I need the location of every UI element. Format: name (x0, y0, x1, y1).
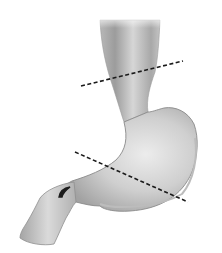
duodenum (20, 182, 76, 245)
stomach-illustration (0, 0, 222, 253)
esophagus (100, 20, 160, 122)
